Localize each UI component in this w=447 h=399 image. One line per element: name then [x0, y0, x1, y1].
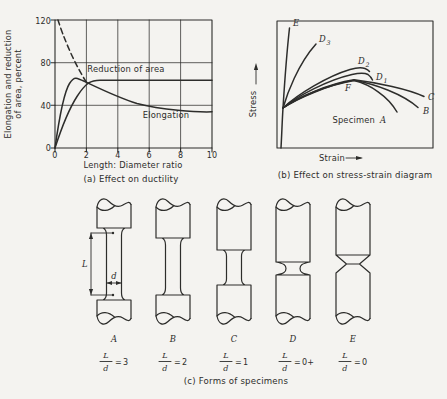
label-D3-subscript: 3	[327, 39, 331, 46]
specimen-outline	[276, 205, 310, 319]
ratio-value: 2	[182, 358, 187, 367]
gridlines	[55, 20, 212, 148]
y-tick-marks	[51, 20, 55, 148]
x-tick-label: 4	[115, 151, 120, 160]
fraction-numerator: L	[102, 351, 109, 360]
ratio-D: L d = 0+	[279, 351, 314, 373]
elongation-label: Elongation	[143, 110, 190, 120]
label-E: E	[292, 18, 299, 28]
equals-sign: =	[235, 358, 242, 367]
specimen-letter: C	[231, 334, 238, 344]
broken-end-top	[156, 199, 190, 211]
broken-end-bottom	[217, 313, 251, 325]
plot-border	[55, 20, 212, 148]
equals-sign: =	[354, 358, 361, 367]
specimen-outline	[156, 205, 190, 319]
label-D1: D	[375, 72, 383, 82]
diameter-dimension-label: d	[111, 271, 117, 281]
ratio-value: 0	[362, 358, 367, 367]
gauge-mark-dot	[112, 232, 114, 234]
panel-b-caption: (b) Effect on stress-strain diagram	[278, 170, 432, 180]
axis-labels: 0 40 80 120 0 2 4 6 8 10 Length: Diamete…	[3, 17, 217, 185]
broken-end-bottom	[276, 313, 310, 325]
label-D2-subscript: 2	[365, 61, 370, 68]
panel-c-caption: (c) Forms of specimens	[184, 376, 289, 386]
length-arrow-up	[89, 233, 93, 239]
specimen-letter: D	[289, 334, 297, 344]
ratio-value: 0+	[302, 358, 314, 367]
diameter-arrow-left	[107, 281, 113, 285]
x-tick-label: 2	[84, 151, 89, 160]
specimen-letter: A	[110, 334, 117, 344]
broken-end-top	[97, 199, 131, 211]
reduction-of-area-label: Reduction of area	[87, 64, 164, 74]
x-tick-marks	[55, 148, 212, 152]
y-tick-label: 120	[35, 17, 51, 26]
x-tick-label: 6	[147, 151, 152, 160]
y-tick-label: 40	[40, 102, 51, 111]
fraction-denominator: d	[103, 364, 108, 373]
ratio-C: L d = 1	[220, 351, 248, 373]
broken-end-top	[217, 199, 251, 211]
label-F: F	[344, 83, 352, 93]
label-B: B	[422, 106, 429, 116]
x-axis-label: Length: Diameter ratio	[84, 160, 183, 170]
fraction-numerator: L	[161, 351, 168, 360]
x-axis-label: Strain	[319, 153, 345, 163]
specimen-E	[336, 199, 370, 324]
diameter-arrow-right	[116, 281, 122, 285]
y-axis-label-line1: Elongation and reduction	[3, 29, 13, 138]
fraction-numerator: L	[341, 351, 348, 360]
y-tick-label: 80	[40, 59, 51, 68]
length-dimension-label: L	[81, 259, 88, 269]
y-axis-label: Stress	[248, 91, 258, 118]
label-A: A	[379, 115, 386, 125]
ratio-value: 1	[243, 358, 248, 367]
curves	[281, 28, 424, 148]
fraction-denominator: d	[162, 364, 167, 373]
specimen-labels: A B C D E L d = 3 L d = 2 L	[100, 334, 367, 386]
dimension-annotations: L d	[81, 232, 121, 296]
label-D1-subscript: 1	[384, 77, 388, 84]
plot-grid	[51, 20, 212, 152]
x-tick-label: 8	[178, 151, 183, 160]
fraction-denominator: d	[223, 364, 228, 373]
specimen-D	[276, 199, 310, 324]
fraction-denominator: d	[342, 364, 347, 373]
fraction-numerator: L	[281, 351, 288, 360]
specimen-outline	[97, 205, 131, 319]
stress-strain-chart: E D 3 D 2 D 1 F C B Specimen A Stress St…	[240, 0, 447, 200]
ratio-A: L d = 3	[100, 351, 128, 373]
strain-axis-arrow-head	[356, 156, 363, 160]
broken-end-top	[336, 199, 370, 211]
y-tick-label: 0	[46, 144, 51, 153]
broken-end-top	[276, 199, 310, 211]
ratio-B: L d = 2	[159, 351, 187, 373]
label-D3: D	[318, 34, 326, 44]
curves	[55, 20, 212, 148]
y-axis-label-line2: of area, percent	[13, 49, 23, 119]
specimen-letter: B	[169, 334, 176, 344]
label-D2: D	[357, 56, 365, 66]
ductility-chart: 0 40 80 120 0 2 4 6 8 10 Length: Diamete…	[0, 0, 240, 195]
equals-sign: =	[294, 358, 301, 367]
ratio-value: 3	[123, 358, 128, 367]
elongation-dashed-curve	[58, 20, 86, 82]
broken-end-bottom	[97, 313, 131, 325]
equals-sign: =	[115, 358, 122, 367]
fraction-denominator: d	[282, 364, 287, 373]
ratio-E: L d = 0	[339, 351, 367, 373]
specimen-outline	[217, 205, 251, 319]
specimen-letter: E	[349, 334, 356, 344]
gauge-mark-dot	[112, 294, 114, 296]
specimen-A	[97, 199, 131, 324]
specimen-forms-diagram: L d A B C D E L d = 3 L	[30, 195, 440, 399]
curve-E	[281, 28, 290, 148]
fraction-numerator: L	[222, 351, 229, 360]
length-arrow-down	[89, 289, 93, 295]
broken-end-bottom	[336, 313, 370, 325]
plot-border	[277, 21, 433, 148]
specimen-C	[217, 199, 251, 324]
specimen-outline	[336, 205, 370, 319]
stress-axis-arrow-head	[254, 63, 258, 70]
